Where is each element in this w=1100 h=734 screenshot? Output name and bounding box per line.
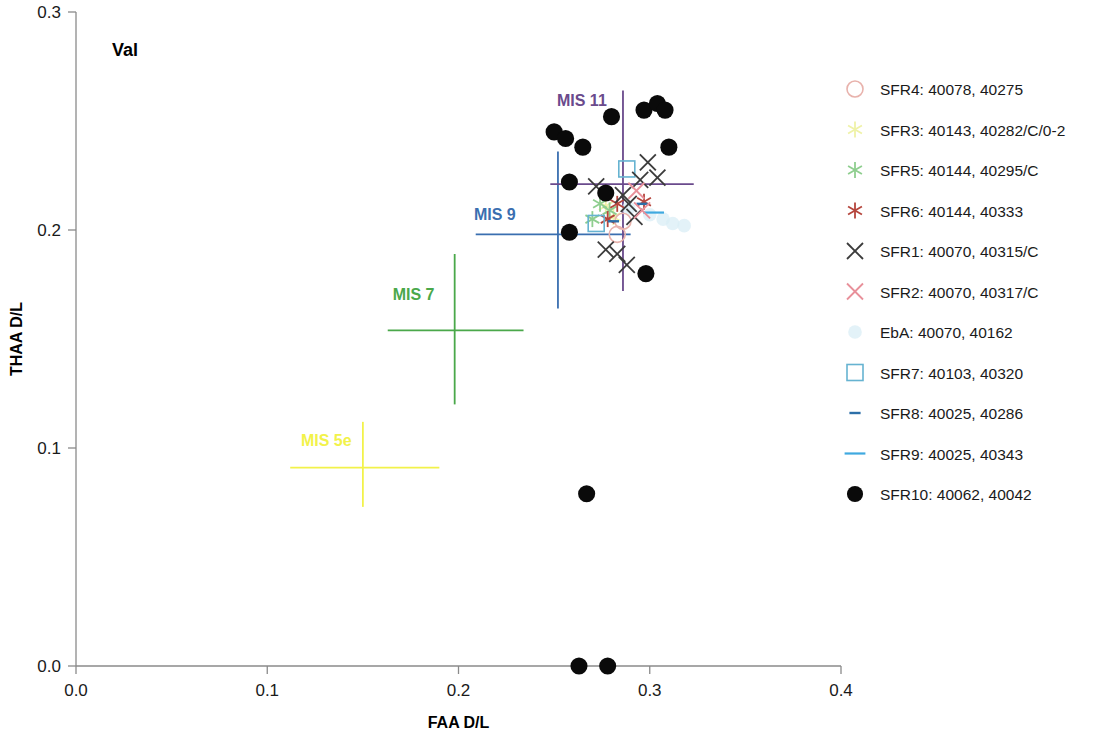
legend-marker-icon (848, 122, 862, 138)
data-point (619, 257, 635, 273)
data-point (570, 657, 587, 674)
legend-item: SFR8: 40025, 40286 (849, 405, 1023, 422)
data-point (597, 184, 614, 201)
data-point (660, 139, 677, 156)
legend-item: SFR6: 40144, 40333 (848, 203, 1023, 220)
y-axis-title: THAA D/L (8, 302, 25, 376)
legend-item-label: SFR5: 40144, 40295/C (880, 162, 1039, 179)
legend-item: SFR9: 40025, 40343 (845, 446, 1023, 463)
legend-item: SFR2: 40070, 40317/C (847, 284, 1039, 301)
data-point (657, 102, 674, 119)
legend-item-label: SFR8: 40025, 40286 (880, 405, 1023, 422)
data-point (598, 242, 614, 258)
legend-item: SFR3: 40143, 40282/C/0-2 (848, 122, 1065, 139)
legend-item-label: SFR3: 40143, 40282/C/0-2 (880, 122, 1065, 139)
x-tick-label: 0.2 (447, 681, 471, 700)
data-point (561, 173, 578, 190)
legend-marker-icon (847, 486, 863, 502)
data-point (666, 217, 680, 231)
data-point (643, 208, 657, 222)
y-tick-label: 0.3 (37, 3, 61, 22)
data-points-layer (546, 95, 691, 675)
data-point (632, 172, 648, 188)
x-tick-label: 0.3 (638, 681, 662, 700)
x-axis-title: FAA D/L (428, 714, 490, 731)
y-tick-label: 0.0 (37, 657, 61, 676)
data-point (640, 154, 656, 170)
x-tick-label: 0.4 (829, 681, 853, 700)
y-tick-label: 0.2 (37, 221, 61, 240)
legend-marker-icon (847, 365, 863, 381)
data-point (619, 161, 635, 177)
x-tick-label: 0.1 (255, 681, 279, 700)
reference-label: MIS 7 (393, 286, 435, 303)
reference-label: MIS 11 (557, 92, 607, 109)
legend-marker-icon (847, 81, 863, 97)
page-title: Val (112, 40, 138, 60)
reference-label: MIS 9 (474, 206, 516, 223)
data-point (561, 224, 578, 241)
data-point (649, 170, 665, 186)
legend-marker-icon (848, 162, 862, 178)
data-point (557, 130, 574, 147)
data-point (603, 108, 620, 125)
legend-marker-icon (847, 284, 863, 300)
scatter-plot-figure: 0.00.10.20.30.40.00.10.20.3FAA D/LTHAA D… (0, 0, 1100, 734)
legend-item-label: SFR9: 40025, 40343 (880, 446, 1023, 463)
series-eba (622, 201, 691, 232)
data-point (677, 219, 691, 233)
legend-item-label: SFR7: 40103, 40320 (880, 365, 1023, 382)
legend-item-label: SFR6: 40144, 40333 (880, 203, 1023, 220)
axes-layer: 0.00.10.20.30.40.00.10.20.3FAA D/LTHAA D… (8, 3, 853, 731)
y-tick-label: 0.1 (37, 439, 61, 458)
legend-item-label: SFR10: 40062, 40042 (880, 486, 1032, 503)
legend-marker-icon (848, 203, 862, 219)
legend-item: SFR4: 40078, 40275 (847, 81, 1023, 98)
reference-marker-mis-7 (388, 254, 524, 404)
legend-layer: SFR4: 40078, 40275SFR3: 40143, 40282/C/0… (845, 81, 1066, 503)
reference-label: MIS 5e (301, 432, 352, 449)
series-sfr10 (546, 95, 678, 675)
legend-item-label: SFR4: 40078, 40275 (880, 81, 1023, 98)
data-point (578, 485, 595, 502)
legend-item-label: EbA: 40070, 40162 (880, 324, 1013, 341)
legend-item: EbA: 40070, 40162 (848, 324, 1013, 341)
legend-item-label: SFR1: 40070, 40315/C (880, 243, 1039, 260)
reference-marker-mis-9 (476, 152, 631, 309)
x-tick-label: 0.0 (64, 681, 88, 700)
legend-item: SFR10: 40062, 40042 (847, 486, 1032, 503)
data-point (599, 657, 616, 674)
plot-svg: 0.00.10.20.30.40.00.10.20.3FAA D/LTHAA D… (0, 0, 1100, 734)
legend-item-label: SFR2: 40070, 40317/C (880, 284, 1039, 301)
legend-marker-icon (848, 325, 862, 339)
legend-marker-icon (847, 243, 863, 259)
legend-item: SFR1: 40070, 40315/C (847, 243, 1039, 260)
legend-item: SFR7: 40103, 40320 (847, 365, 1023, 382)
legend-item: SFR5: 40144, 40295/C (848, 162, 1038, 179)
data-point (637, 265, 654, 282)
data-point (574, 139, 591, 156)
